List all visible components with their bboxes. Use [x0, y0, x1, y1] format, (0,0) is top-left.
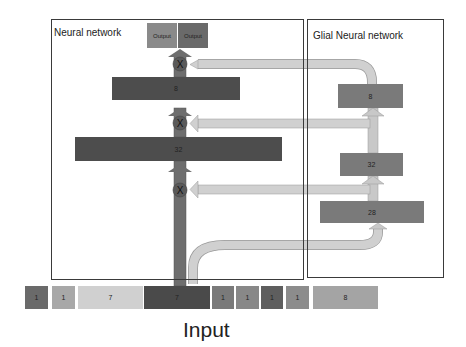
input-cell-5-label: 1	[221, 294, 225, 301]
input-cell-4-label: 7	[175, 294, 179, 301]
input-cell-8-label: 1	[296, 294, 300, 301]
input-cell-3: 7	[78, 286, 143, 309]
input-cell-9: 8	[313, 286, 378, 309]
input-cell-6: 1	[236, 286, 259, 309]
glial-network-frame	[307, 19, 444, 278]
input-cell-1-label: 1	[35, 294, 39, 301]
input-cell-1: 1	[25, 286, 48, 309]
glial-layer-32-label: 32	[368, 161, 376, 168]
glial-layer-32: 32	[340, 153, 403, 176]
output-node-2-label: Output	[184, 33, 202, 39]
glial-layer-28-label: 28	[368, 209, 376, 216]
input-cell-9-label: 8	[344, 294, 348, 301]
input-label: Input	[183, 318, 230, 342]
glial-layer-28: 28	[320, 201, 424, 223]
input-cell-8: 1	[286, 286, 309, 309]
glial-layer-8: 8	[338, 84, 403, 108]
nn-layer-8-label: 8	[174, 85, 178, 92]
output-node-1: Output	[147, 23, 177, 48]
input-cell-7-label: 1	[270, 294, 274, 301]
output-node-2: Output	[178, 23, 208, 48]
input-cell-5: 1	[212, 286, 234, 309]
nn-layer-32-label: 32	[175, 146, 183, 153]
input-cell-2-label: 1	[62, 294, 66, 301]
glial-layer-8-label: 8	[369, 93, 373, 100]
output-node-1-label: Output	[153, 33, 171, 39]
input-cell-4: 7	[144, 286, 210, 309]
input-cell-6-label: 1	[246, 294, 250, 301]
nn-layer-8: 8	[112, 77, 240, 100]
input-cell-7: 1	[261, 286, 283, 309]
glial-network-title: Glial Neural network	[313, 30, 403, 41]
nn-layer-32: 32	[75, 137, 282, 161]
neural-network-title: Neural network	[54, 27, 121, 38]
input-cell-2: 1	[52, 286, 75, 309]
input-cell-3-label: 7	[109, 294, 113, 301]
